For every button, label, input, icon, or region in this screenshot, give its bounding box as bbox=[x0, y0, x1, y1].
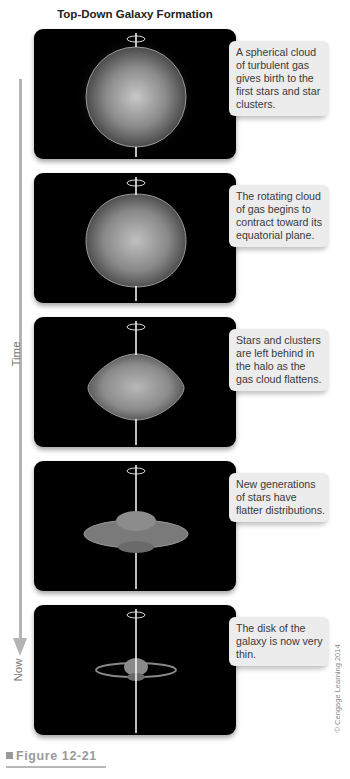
spherical-cloud-illustration bbox=[34, 29, 236, 159]
diagram-title: Top-Down Galaxy Formation bbox=[34, 8, 236, 20]
flattening-cloud-illustration bbox=[34, 317, 236, 447]
galaxy-panel-new-generations bbox=[34, 461, 236, 591]
thin-disk-illustration bbox=[34, 605, 236, 735]
new-generations-illustration bbox=[34, 461, 236, 591]
callout-new-generations: New generations of stars have flatter di… bbox=[229, 473, 329, 522]
timeline-arrow-icon bbox=[13, 638, 27, 656]
figure-rule bbox=[6, 766, 106, 768]
callout-thin-disk: The disk of the galaxy is now very thin. bbox=[229, 617, 329, 666]
galaxy-panel-thin-disk bbox=[34, 605, 236, 735]
contracting-cloud-illustration bbox=[34, 173, 236, 303]
figure-bullet-icon bbox=[6, 752, 13, 759]
callout-flattening: Stars and clusters are left behind in th… bbox=[229, 329, 329, 391]
figure-label: Figure 12-21 bbox=[6, 749, 97, 763]
now-label: Now bbox=[12, 658, 24, 681]
callout-contracting: The rotating cloud of gas begins to cont… bbox=[229, 185, 329, 247]
copyright-notice: © Cengage Learning 2014 bbox=[333, 653, 342, 733]
galaxy-panel-flattening bbox=[34, 317, 236, 447]
galaxy-panel-contracting bbox=[34, 173, 236, 303]
callout-spherical: A spherical cloud of turbulent gas gives… bbox=[229, 41, 329, 116]
time-label: Time bbox=[10, 341, 22, 366]
galaxy-panel-spherical bbox=[34, 29, 236, 159]
